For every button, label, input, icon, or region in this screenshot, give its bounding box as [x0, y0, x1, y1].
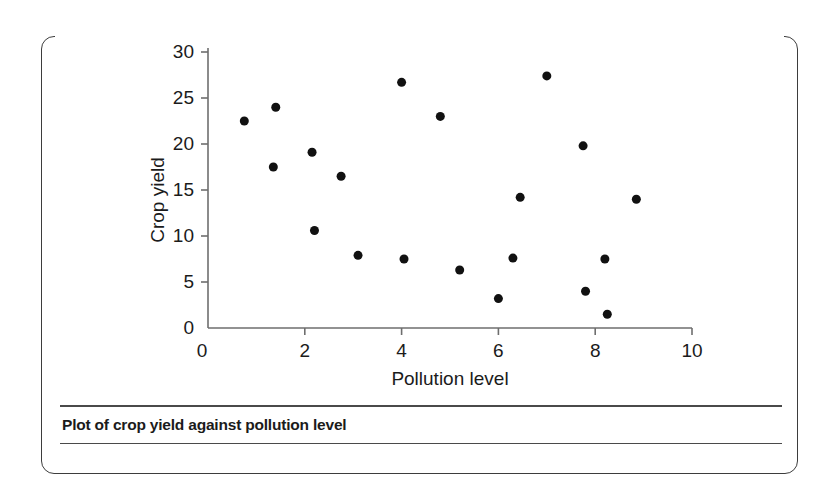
- data-point: [455, 266, 464, 275]
- y-axis-title: Crop yield: [147, 157, 169, 243]
- data-point: [308, 148, 317, 157]
- x-axis-tick-label: 10: [681, 340, 702, 362]
- x-axis-tick-label: 4: [396, 340, 407, 362]
- x-axis-tick-label: 0: [197, 340, 208, 362]
- y-axis-tick-label: 0: [148, 317, 194, 339]
- x-axis-tick-label: 8: [590, 340, 601, 362]
- x-axis-tick-label: 6: [493, 340, 504, 362]
- data-point: [508, 254, 517, 263]
- figure-caption: Plot of crop yield against pollution lev…: [60, 407, 782, 443]
- figure-caption-block: Plot of crop yield against pollution lev…: [60, 405, 782, 444]
- data-point: [579, 141, 588, 150]
- y-axis-tick-label: 30: [148, 41, 194, 63]
- data-point: [400, 255, 409, 264]
- y-axis-tick-label: 5: [148, 271, 194, 293]
- data-point: [516, 193, 525, 202]
- axes: [208, 48, 692, 328]
- data-point: [397, 78, 406, 87]
- data-point: [269, 163, 278, 172]
- data-point: [603, 310, 612, 319]
- data-point: [542, 71, 551, 80]
- data-point: [271, 103, 280, 112]
- data-point: [310, 226, 319, 235]
- data-point: [337, 172, 346, 181]
- y-axis-tick-label: 25: [148, 87, 194, 109]
- x-axis-tick-label: 2: [300, 340, 311, 362]
- data-points: [240, 71, 641, 318]
- data-point: [354, 251, 363, 260]
- data-point: [632, 195, 641, 204]
- data-point: [581, 287, 590, 296]
- data-point: [240, 117, 249, 126]
- x-axis-title: Pollution level: [391, 368, 508, 390]
- y-axis-tick-label: 20: [148, 133, 194, 155]
- caption-rule-bottom: [60, 443, 782, 445]
- data-point: [494, 294, 503, 303]
- data-point: [436, 112, 445, 121]
- axis-ticks: [201, 52, 692, 335]
- data-point: [600, 255, 609, 264]
